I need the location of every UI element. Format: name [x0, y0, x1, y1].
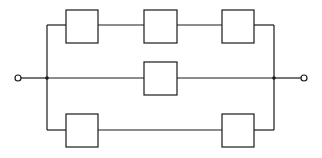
- block: [222, 10, 254, 43]
- input-terminal: [15, 75, 21, 81]
- left-junction-dot: [45, 76, 49, 80]
- right-junction-dot: [272, 76, 276, 80]
- block: [66, 10, 98, 43]
- block-diagram: [0, 0, 322, 158]
- output-terminal: [301, 75, 307, 81]
- block: [144, 10, 177, 43]
- block: [222, 114, 254, 147]
- block: [66, 114, 98, 147]
- block: [144, 62, 177, 95]
